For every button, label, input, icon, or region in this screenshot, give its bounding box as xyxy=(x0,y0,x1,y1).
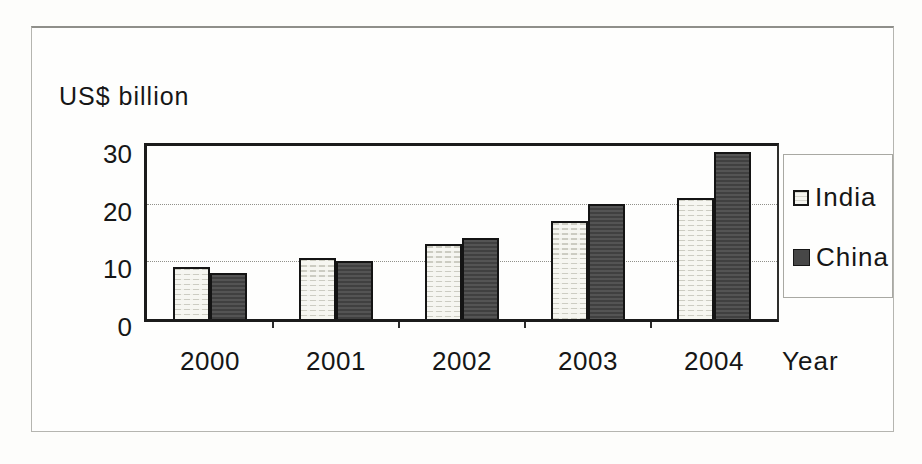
y-tick-label-30: 30 xyxy=(32,139,132,170)
legend: India China xyxy=(783,154,893,298)
bar-india-2003 xyxy=(551,221,588,319)
bar-china-2004 xyxy=(714,152,751,319)
legend-entry-india: India xyxy=(793,182,892,213)
x-axis-tick xyxy=(398,322,400,328)
plot-area xyxy=(144,143,779,322)
x-tick-label-2003: 2003 xyxy=(558,346,618,377)
bar-china-2000 xyxy=(210,273,247,319)
bar-india-2000 xyxy=(173,267,210,319)
x-tick-label-2004: 2004 xyxy=(684,346,744,377)
bar-china-2002 xyxy=(462,238,499,319)
bar-india-2001 xyxy=(299,258,336,319)
x-axis-tick xyxy=(272,322,274,328)
bar-china-2001 xyxy=(336,261,373,319)
india-swatch-icon xyxy=(793,190,809,206)
y-tick-label-0: 0 xyxy=(32,312,132,343)
china-swatch-icon xyxy=(793,249,810,266)
bar-india-2002 xyxy=(425,244,462,319)
bar-india-2004 xyxy=(677,198,714,319)
x-tick-label-2002: 2002 xyxy=(432,346,492,377)
y-tick-label-20: 20 xyxy=(32,196,132,227)
x-tick-label-2001: 2001 xyxy=(306,346,366,377)
x-tick-label-2000: 2000 xyxy=(180,346,240,377)
bar-china-2003 xyxy=(588,204,625,319)
x-axis-title: Year xyxy=(782,346,839,377)
chart-panel: US$ billion Year India China 01020302000… xyxy=(31,26,894,432)
y-axis-unit-label: US$ billion xyxy=(59,82,190,111)
legend-label-china: China xyxy=(816,242,889,273)
scanned-chart-page: US$ billion Year India China 01020302000… xyxy=(0,0,922,464)
x-axis-tick xyxy=(650,322,652,328)
x-axis-tick xyxy=(524,322,526,328)
legend-label-india: India xyxy=(815,182,876,213)
legend-entry-china: China xyxy=(793,242,892,273)
y-tick-label-10: 10 xyxy=(32,254,132,285)
